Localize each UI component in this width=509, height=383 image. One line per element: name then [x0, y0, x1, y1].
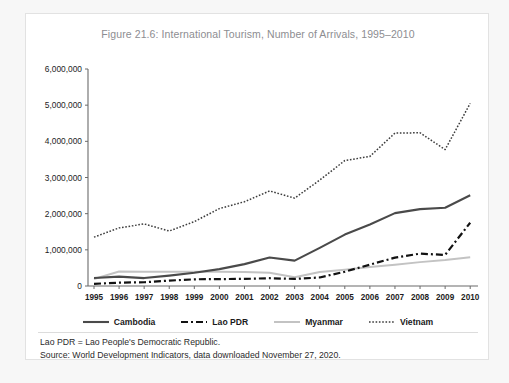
series-lines	[94, 103, 470, 283]
legend-item-myanmar: Myanmar	[274, 317, 343, 327]
legend-item-vietnam: Vietnam	[369, 317, 433, 327]
legend-item-lao-pdr: Lao PDR	[181, 317, 248, 327]
x-tick-label: 1998	[160, 293, 179, 302]
x-tick-label: 2000	[210, 293, 229, 302]
x-tick-label: 2007	[386, 293, 405, 302]
line-chart-svg: 01,000,0002,000,0003,000,0004,000,0005,0…	[26, 52, 490, 322]
y-tick-label: 2,000,000	[45, 209, 83, 219]
legend-swatch-vietnam	[369, 317, 395, 327]
chart-title: Figure 21.6: International Tourism, Numb…	[26, 28, 490, 40]
x-tick-label: 2005	[336, 293, 355, 302]
x-tick-label: 1996	[110, 293, 129, 302]
plot-area: 01,000,0002,000,0003,000,0004,000,0005,0…	[26, 52, 490, 322]
x-tick-label: 2010	[461, 293, 480, 302]
footnote-definition: Lao PDR = Lao People's Democratic Republ…	[40, 336, 480, 349]
series-line-cambodia	[94, 195, 470, 278]
x-tick-label: 2008	[411, 293, 430, 302]
y-tick-label: 5,000,000	[45, 100, 83, 110]
legend-label-myanmar: Myanmar	[305, 317, 343, 327]
legend-swatch-lao-pdr	[181, 317, 207, 327]
legend-swatch-cambodia	[83, 317, 109, 327]
x-tick-label: 1995	[85, 293, 104, 302]
y-axis-tick-labels: 01,000,0002,000,0003,000,0004,000,0005,0…	[45, 64, 83, 291]
y-tick-label: 4,000,000	[45, 136, 83, 146]
series-line-myanmar	[94, 257, 470, 279]
x-tick-label: 1999	[185, 293, 204, 302]
x-tick-label: 2009	[436, 293, 455, 302]
footnote-source: Source: World Development Indicators, da…	[40, 349, 480, 362]
x-tick-label: 2006	[361, 293, 380, 302]
y-tick-label: 0	[77, 281, 82, 291]
y-tick-label: 6,000,000	[45, 64, 83, 74]
legend-label-cambodia: Cambodia	[114, 317, 156, 327]
legend-swatch-myanmar	[274, 317, 300, 327]
footnote-divider	[38, 332, 478, 333]
figure-card: Figure 21.6: International Tourism, Numb…	[25, 13, 489, 360]
x-tick-label: 2001	[235, 293, 254, 302]
legend-label-vietnam: Vietnam	[400, 317, 433, 327]
legend-label-lao-pdr: Lao PDR	[212, 317, 248, 327]
y-tick-label: 3,000,000	[45, 173, 83, 183]
footnote-block: Lao PDR = Lao People's Democratic Republ…	[40, 336, 480, 361]
x-tick-label: 2004	[311, 293, 330, 302]
series-line-vietnam	[94, 103, 470, 237]
x-tick-label: 1997	[135, 293, 154, 302]
x-axis-tick-labels: 1995199619971998199920002001200220032004…	[85, 293, 480, 302]
x-tick-label: 2002	[260, 293, 279, 302]
y-tick-label: 1,000,000	[45, 245, 83, 255]
legend-item-cambodia: Cambodia	[83, 317, 156, 327]
chart-legend: Cambodia Lao PDR Myanmar Vietnam	[26, 317, 490, 327]
x-tick-label: 2003	[286, 293, 305, 302]
